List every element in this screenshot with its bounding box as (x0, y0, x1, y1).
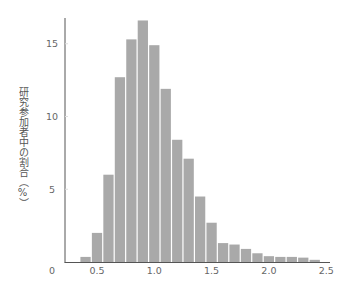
histogram-bar (310, 260, 320, 262)
y-tick-label: 10 (46, 111, 58, 122)
x-tick-label: 2.0 (261, 265, 276, 276)
histogram-bars (80, 20, 319, 262)
histogram-bar (195, 197, 205, 262)
histogram-bar (161, 89, 171, 262)
y-axis-label: 研究参加者中の割合（%） (13, 87, 27, 208)
histogram-bar (252, 253, 262, 262)
y-tick-label: 15 (46, 38, 58, 49)
x-axis-ticks: 0.51.01.52.02.5 (89, 265, 333, 276)
x-tick-label: 1.5 (204, 265, 219, 276)
histogram-bar (298, 258, 308, 262)
histogram-bar (229, 245, 239, 262)
histogram-bar (172, 140, 182, 262)
histogram-bar (149, 45, 159, 262)
y-tick-label: 5 (49, 184, 55, 195)
histogram-bar (80, 257, 90, 262)
histogram-bar (126, 39, 136, 262)
histogram-bar (103, 175, 113, 262)
histogram-bar (184, 159, 194, 262)
histogram-bar (138, 20, 148, 262)
x-tick-label: 1.0 (147, 265, 162, 276)
histogram-bar (275, 257, 285, 262)
y-tick-label: 0 (49, 265, 55, 276)
histogram-bar (241, 249, 251, 262)
x-tick-label: 2.5 (319, 265, 334, 276)
histogram-bar (264, 256, 274, 262)
histogram-bar (287, 257, 297, 262)
histogram-bar (115, 77, 125, 262)
histogram-chart: 051015 0.51.01.52.02.5 (0, 0, 352, 292)
histogram-bar (206, 223, 216, 262)
x-tick-label: 0.5 (89, 265, 104, 276)
histogram-bar (92, 233, 102, 262)
histogram-bar (218, 243, 228, 262)
